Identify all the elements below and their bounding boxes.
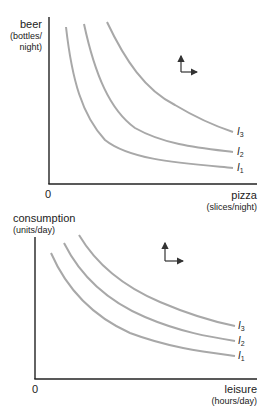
bottom-y-axis-unit: (units/day) (13, 226, 55, 235)
bottom-curve-label-i2: I2 (238, 336, 245, 347)
bottom-y-axis-label: consumption (13, 213, 75, 224)
top-y-axis-unit-line2: night) (19, 43, 42, 52)
bottom-curve-i3 (79, 235, 235, 326)
top-curve-i1 (66, 27, 233, 168)
bottom-x-axis-label: leisure (225, 384, 257, 395)
top-origin-label: 0 (45, 189, 51, 200)
top-chart (48, 17, 257, 184)
top-y-axis-label: beer (20, 19, 42, 30)
bottom-curve-label-i3: I3 (238, 321, 245, 332)
top-curve-label-i2: I2 (237, 147, 244, 158)
top-curve-label-i1: I1 (237, 163, 244, 174)
bottom-preference-arrow-icon (165, 243, 183, 261)
top-y-axis-unit-line1: (bottles/ (10, 32, 42, 41)
bottom-curve-i1 (51, 253, 235, 356)
top-x-axis-unit: (slices/night) (206, 203, 257, 212)
top-curve-i2 (84, 24, 233, 152)
top-curve-i3 (107, 22, 233, 132)
bottom-chart (34, 235, 257, 379)
top-preference-arrow-icon (181, 56, 197, 72)
top-curve-label-i3: I3 (237, 127, 244, 138)
bottom-origin-label: 0 (32, 384, 38, 395)
bottom-curve-label-i1: I1 (238, 351, 245, 362)
bottom-x-axis-unit: (hours/day) (211, 397, 257, 406)
bottom-curve-i2 (64, 243, 235, 341)
top-x-axis-label: pizza (231, 190, 257, 201)
